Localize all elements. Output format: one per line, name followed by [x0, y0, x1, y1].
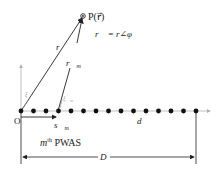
vector-rm-line [58, 68, 70, 111]
pwas-array-diagram: P(r⃗) r⃗ = r∠φ r⃗ r⃗m ξ⃗ ξ⃗m O s⃗m d mth… [0, 0, 216, 171]
vector-r-label: r⃗ [56, 42, 67, 52]
vector-rm-label: r⃗m [66, 58, 82, 69]
unit-xi-line [23, 98, 30, 108]
point-p-label: P(r⃗) [88, 11, 104, 23]
aperture-label: D [99, 152, 107, 162]
unit-xim-label: ξ⃗m [63, 95, 73, 103]
origin-label: O [14, 116, 21, 126]
unit-xi-label: ξ⃗ [25, 91, 32, 98]
vector-sm-label: s⃗m [54, 120, 70, 131]
spacing-label: d [137, 116, 142, 126]
pwas-elements [19, 109, 199, 114]
mth-pwas-label: mth PWAS [40, 137, 81, 148]
position-equation: r⃗ = r∠φ [95, 29, 132, 39]
